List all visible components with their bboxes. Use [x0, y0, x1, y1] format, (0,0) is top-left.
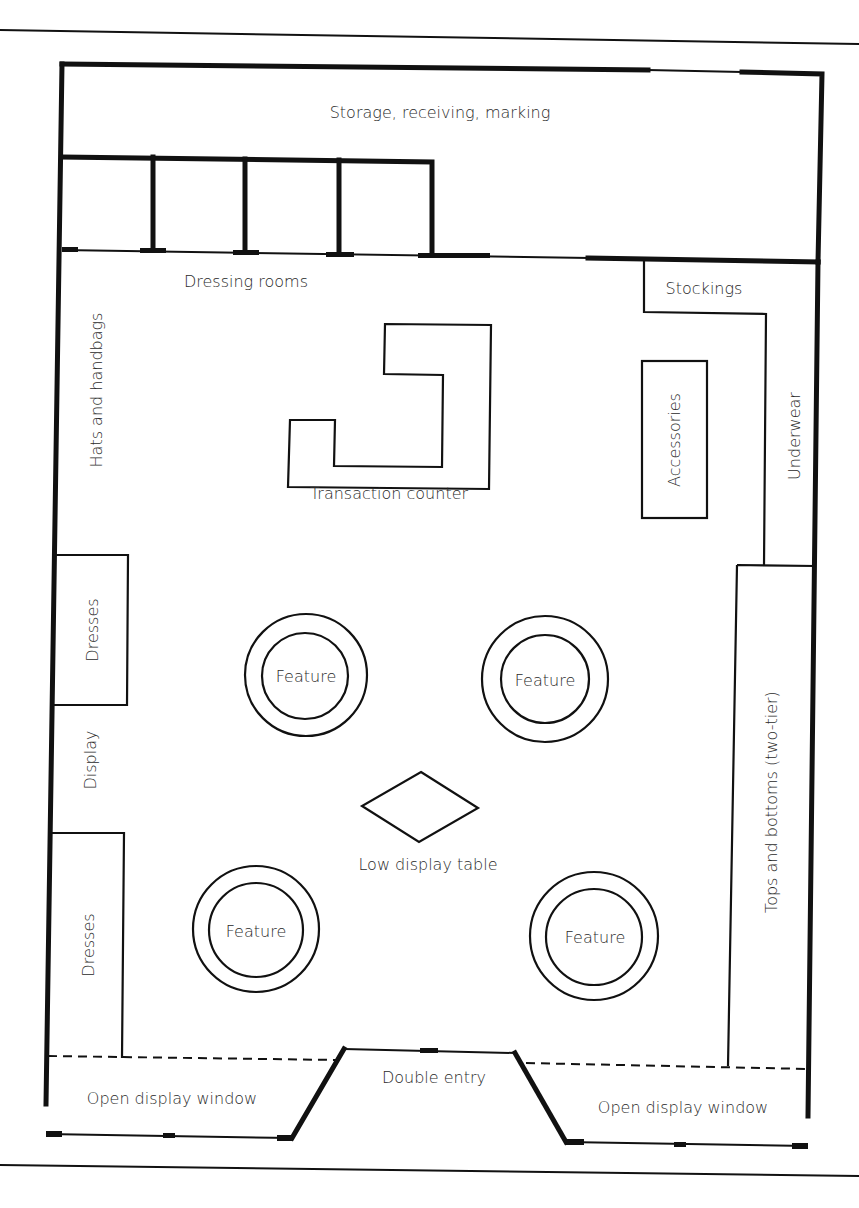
storage-label: Storage, receiving, marking [330, 103, 551, 122]
tops-bottoms-label: Tops and bottoms (two-tier) [762, 691, 781, 913]
feature-label: Feature [515, 671, 575, 690]
open-window-right-label: Open display window [598, 1098, 768, 1117]
bottom-rule [0, 1165, 859, 1176]
transaction-counter-label: Transaction counter [310, 484, 469, 503]
hats-handbags-label: Hats and handbags [87, 313, 106, 468]
dressing-rooms-label: Dressing rooms [184, 272, 308, 291]
front-line-left [48, 1056, 336, 1060]
top-rule [0, 30, 859, 44]
feature-label: Feature [276, 667, 336, 686]
stockings-label: Stockings [666, 279, 743, 298]
display-label: Display [81, 731, 100, 790]
dresses-lower-label: Dresses [79, 913, 98, 976]
low-display-table-label: Low display table [358, 855, 497, 874]
open-window-left-label: Open display window [87, 1089, 257, 1108]
feature-label: Feature [565, 928, 625, 947]
transaction-counter [288, 324, 491, 489]
stockings-underwear-fixture [644, 261, 766, 565]
low-display-table [362, 772, 478, 842]
double-entry-label: Double entry [382, 1068, 486, 1087]
accessories-label: Accessories [665, 393, 684, 487]
front-line-right [526, 1063, 808, 1069]
underwear-label: Underwear [785, 392, 804, 480]
feature-label: Feature [226, 922, 286, 941]
dressing-room-walls [62, 157, 818, 262]
dresses-upper-label: Dresses [83, 598, 102, 661]
floor-plan: Storage, receiving, marking Dressing roo… [0, 0, 859, 1208]
